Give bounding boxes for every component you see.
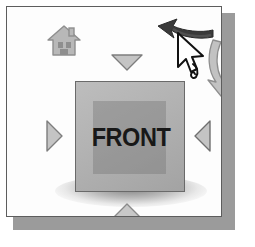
- triangle-down-icon[interactable]: [110, 52, 144, 72]
- cube-front-face[interactable]: FRONT: [75, 81, 185, 192]
- viewcube-widget: FRONT: [0, 0, 255, 247]
- triangle-up-glyph: [110, 202, 144, 217]
- triangle-right-glyph: [44, 119, 64, 153]
- viewcube-panel: FRONT: [6, 6, 222, 217]
- cube-face-label: FRONT: [79, 82, 182, 193]
- mouse-pointer-icon: [174, 31, 210, 81]
- triangle-left-glyph: [193, 119, 213, 153]
- mouse-pointer-glyph: [174, 31, 210, 81]
- triangle-up-icon[interactable]: [110, 202, 144, 217]
- triangle-right-icon[interactable]: [44, 119, 64, 153]
- home-icon-glyph: [45, 21, 83, 59]
- triangle-left-icon[interactable]: [193, 119, 213, 153]
- home-icon[interactable]: [45, 21, 83, 59]
- triangle-down-glyph: [110, 52, 144, 72]
